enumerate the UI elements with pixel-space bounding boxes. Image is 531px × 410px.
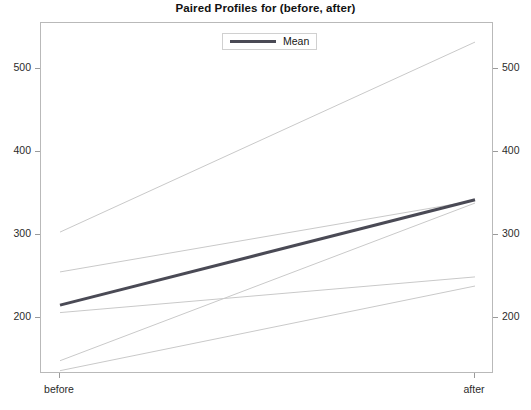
y-tick-label-left-400: 400 <box>13 145 31 156</box>
y-tick-label-right-200: 200 <box>502 311 520 322</box>
chart-legend: Mean <box>222 33 317 50</box>
legend-swatch-mean-icon <box>230 40 276 43</box>
x-tick-label-before: before <box>44 383 74 395</box>
profile-line <box>60 201 475 272</box>
y-tick-label-right-500: 500 <box>502 62 520 73</box>
profile-line <box>60 286 475 371</box>
profile-line <box>60 42 475 232</box>
x-tick-mark-after <box>474 373 475 378</box>
plot-area <box>40 22 493 373</box>
y-tick-label-left-500: 500 <box>13 62 31 73</box>
x-axis: before after <box>40 377 493 397</box>
x-tick-mark-before <box>59 373 60 378</box>
x-tick-label-after: after <box>463 383 484 395</box>
mean-line <box>60 200 475 305</box>
y-axis-right: 500 400 300 200 <box>493 22 531 373</box>
paired-profiles-chart: Paired Profiles for (before, after) 500 … <box>0 0 531 410</box>
y-axis-left: 500 400 300 200 <box>0 22 40 373</box>
profile-lines-svg <box>41 23 494 374</box>
chart-title: Paired Profiles for (before, after) <box>0 2 531 14</box>
y-tick-label-left-300: 300 <box>13 228 31 239</box>
y-tick-label-left-200: 200 <box>13 311 31 322</box>
y-tick-label-right-400: 400 <box>502 145 520 156</box>
legend-label-mean: Mean <box>283 36 309 47</box>
y-tick-label-right-300: 300 <box>502 228 520 239</box>
